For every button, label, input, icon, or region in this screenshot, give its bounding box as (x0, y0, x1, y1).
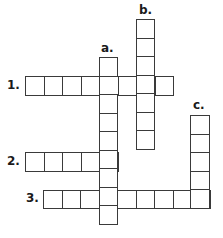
crossword-cell[interactable] (44, 152, 64, 172)
crossword-cell[interactable] (99, 113, 119, 133)
crossword-cell[interactable] (81, 76, 101, 96)
crossword-cell[interactable] (99, 131, 119, 151)
crossword-cell[interactable] (62, 152, 82, 172)
crossword-cell[interactable] (136, 190, 156, 210)
label-down-c: c. (193, 99, 205, 111)
crossword-cell[interactable] (190, 189, 210, 209)
crossword-cell[interactable] (44, 76, 64, 96)
crossword-cell[interactable] (25, 152, 45, 172)
label-down-a: a. (101, 42, 114, 54)
crossword-cell[interactable] (81, 152, 101, 172)
crossword-cell[interactable] (118, 76, 138, 96)
crossword-cell[interactable] (136, 130, 156, 150)
crossword-cell[interactable] (99, 57, 119, 77)
crossword-cell[interactable] (43, 190, 63, 210)
crossword-cell[interactable] (99, 94, 119, 114)
label-across-2: 2. (7, 155, 20, 167)
crossword-cell[interactable] (62, 76, 82, 96)
crossword-cell[interactable] (136, 93, 156, 113)
crossword-cell[interactable] (62, 190, 82, 210)
crossword-cell[interactable] (155, 76, 175, 96)
crossword-cell[interactable] (190, 134, 210, 154)
crossword-puzzle: 1. 2. 3. a. b. c. (0, 0, 223, 238)
crossword-cell[interactable] (99, 168, 119, 188)
crossword-cell[interactable] (136, 38, 156, 58)
crossword-cell[interactable] (99, 150, 119, 170)
crossword-cell[interactable] (117, 190, 137, 210)
crossword-cell[interactable] (99, 187, 119, 207)
label-down-b: b. (139, 4, 152, 16)
crossword-cell[interactable] (136, 112, 156, 132)
label-across-3: 3. (26, 192, 39, 204)
crossword-cell[interactable] (190, 171, 210, 191)
crossword-cell[interactable] (99, 76, 119, 96)
crossword-cell[interactable] (136, 56, 156, 76)
label-across-1: 1. (7, 79, 20, 91)
crossword-cell[interactable] (190, 115, 210, 135)
crossword-cell[interactable] (25, 76, 45, 96)
crossword-cell[interactable] (136, 75, 156, 95)
crossword-cell[interactable] (190, 152, 210, 172)
crossword-cell[interactable] (154, 190, 174, 210)
crossword-cell[interactable] (99, 205, 119, 225)
crossword-cell[interactable] (80, 190, 100, 210)
crossword-cell[interactable] (136, 19, 156, 39)
